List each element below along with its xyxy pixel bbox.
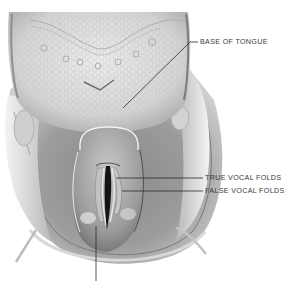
left-cuneiform: [14, 110, 34, 146]
label-false-vocal-folds: FALSE VOCAL FOLDS: [205, 187, 284, 194]
label-true-vocal-folds: TRUE VOCAL FOLDS: [205, 174, 281, 181]
base-of-tongue: [8, 12, 190, 133]
label-base-of-tongue: BASE OF TONGUE: [200, 38, 268, 45]
